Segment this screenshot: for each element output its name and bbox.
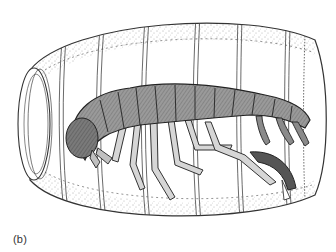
- barrel-amphipod-drawing: [0, 0, 336, 252]
- scientific-illustration: (b): [0, 0, 336, 252]
- panel-label: (b): [13, 233, 27, 245]
